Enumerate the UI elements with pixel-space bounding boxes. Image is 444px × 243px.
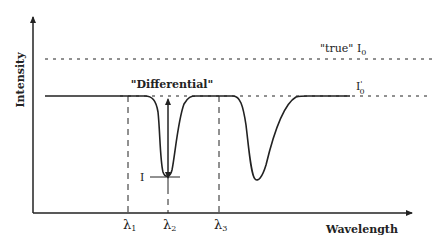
absorption-diagram: Intensity Wavelength "true" I0 I'0 "Diff… xyxy=(0,0,444,243)
i0-prime-label: I'0 xyxy=(356,79,365,96)
true-i0-text: "true" I xyxy=(320,42,361,55)
i-label: I xyxy=(140,171,144,184)
lambda1-symbol: λ xyxy=(123,217,131,232)
lambda2-symbol: λ xyxy=(163,217,171,232)
i0-prime-subscript: 0 xyxy=(360,87,365,96)
x-axis-label: Wavelength xyxy=(325,223,398,236)
lambda2-subscript: 2 xyxy=(171,224,176,233)
lambda3-symbol: λ xyxy=(214,217,222,232)
true-i0-subscript: 0 xyxy=(361,48,366,57)
true-i0-label: "true" I0 xyxy=(320,42,366,57)
lambda1-subscript: 1 xyxy=(131,224,136,233)
lambda3-subscript: 3 xyxy=(222,224,227,233)
y-axis-label: Intensity xyxy=(14,52,27,108)
differential-label: "Differential" xyxy=(131,78,214,91)
lambda1-label: λ1 xyxy=(123,217,136,233)
spectrum-curve xyxy=(45,96,350,180)
lambda3-label: λ3 xyxy=(214,217,227,233)
lambda2-label: λ2 xyxy=(163,217,176,233)
